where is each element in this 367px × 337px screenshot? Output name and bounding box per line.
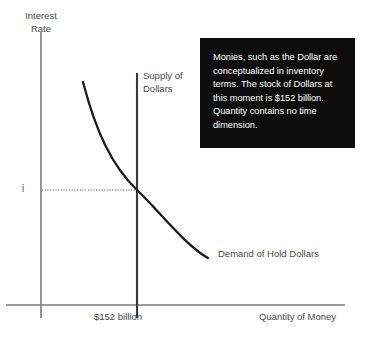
equilibrium-interest-rate-tick-label: i <box>22 183 24 196</box>
demand-of-hold-dollars-curve <box>83 82 208 258</box>
y-axis-label: Interest Rate <box>10 10 72 35</box>
chart-figure: Interest Rate i Supply of Dollars Demand… <box>0 0 367 337</box>
equilibrium-quantity-tick-label: $152 billion <box>94 311 142 324</box>
x-axis-label: Quantity of Money <box>259 311 336 324</box>
demand-of-hold-dollars-label: Demand of Hold Dollars <box>218 248 319 261</box>
annotation-note-box: Monies, such as the Dollar are conceptua… <box>200 38 355 148</box>
annotation-note-text: Monies, such as the Dollar are conceptua… <box>213 51 343 133</box>
supply-of-dollars-label: Supply of Dollars <box>143 70 203 95</box>
